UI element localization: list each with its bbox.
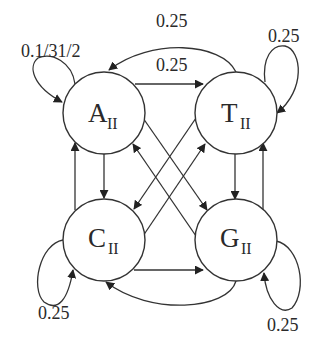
edge-a-to-g	[143, 118, 207, 210]
node-c: C II	[63, 199, 145, 281]
node-t-subscript: II	[240, 115, 251, 132]
node-t-letter: T	[221, 98, 238, 128]
edge-g-to-a	[133, 144, 196, 236]
label-a-to-t: 0.25	[156, 55, 188, 75]
node-t: T II	[195, 72, 277, 154]
label-c-self: 0.25	[38, 303, 70, 323]
node-a: A II	[63, 72, 145, 154]
node-a-letter: A	[88, 98, 108, 128]
node-g-letter: G	[220, 223, 240, 253]
edge-g-to-c	[106, 281, 236, 305]
label-g-self: 0.25	[267, 315, 299, 335]
state-diagram: A II T II C II G II 0.1/31/2 0.25 0.25 0…	[0, 0, 326, 345]
node-c-letter: C	[88, 223, 106, 253]
edge-t-to-c	[134, 118, 196, 209]
label-t-self: 0.25	[268, 26, 300, 46]
node-g-subscript: II	[241, 240, 252, 257]
label-t-to-a: 0.25	[156, 11, 188, 31]
edge-c-to-t	[143, 144, 205, 236]
node-a-subscript: II	[107, 115, 118, 132]
node-c-subscript: II	[108, 240, 119, 257]
label-a-self: 0.1/31/2	[21, 41, 81, 61]
node-g: G II	[195, 199, 277, 281]
